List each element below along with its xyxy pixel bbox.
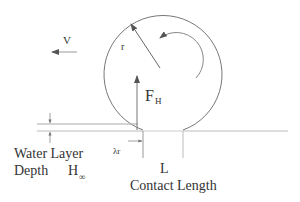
- water-layer-label: Water Layer: [14, 146, 84, 161]
- depth-subscript: ∞: [79, 172, 85, 182]
- rotation-arrow: [160, 32, 203, 78]
- radius-arrow: [131, 24, 160, 68]
- force-label: F: [145, 87, 154, 104]
- depth-label: Depth: [14, 163, 48, 178]
- depth-symbol: H: [68, 163, 78, 178]
- radius-label: r: [121, 41, 125, 52]
- contact-symbol-label: L: [160, 161, 169, 176]
- force-subscript: H: [155, 96, 162, 106]
- velocity-label: V: [63, 34, 71, 46]
- tire-outline: [104, 15, 222, 130]
- tire-hydroplaning-diagram: V r F H λr L Contact Length Water Layer …: [0, 0, 300, 202]
- lambda-r-label: λr: [113, 146, 120, 156]
- contact-length-label: Contact Length: [130, 178, 217, 193]
